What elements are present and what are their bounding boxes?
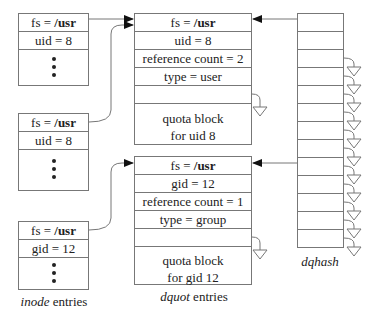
dquot-quota-block: quota block for uid 8 xyxy=(135,110,251,144)
inode-fs-field: fs = /usr xyxy=(19,222,88,240)
hash-bucket xyxy=(298,140,343,158)
inode-entry-3: fs = /usr gid = 12 xyxy=(18,221,89,290)
inode-id-field: uid = 8 xyxy=(19,32,88,50)
arrow-inode3-to-dquot xyxy=(89,163,133,230)
fs-label: fs = xyxy=(31,15,54,30)
ellipsis-icon xyxy=(19,259,88,287)
dquot-refcount-field: reference count = 2 xyxy=(135,50,251,68)
hash-bucket xyxy=(298,14,343,32)
hash-bucket xyxy=(298,176,343,194)
inode-entries-caption: inode entries xyxy=(14,294,94,310)
inode-id-field: uid = 8 xyxy=(19,132,88,150)
hash-bucket xyxy=(298,212,343,230)
dquot-id-field: gid = 12 xyxy=(135,175,251,193)
dquot-entry-group: fs = /usr gid = 12 reference count = 1 t… xyxy=(134,156,252,285)
hash-bucket xyxy=(298,68,343,86)
dqhash-table xyxy=(297,13,344,248)
fs-value: /usr xyxy=(54,115,76,130)
hash-bucket xyxy=(298,194,343,212)
dquot-type-field: type = user xyxy=(135,68,251,86)
hash-bucket xyxy=(298,122,343,140)
dquot-type-field: type = group xyxy=(135,211,251,229)
inode-fs-field: fs = /usr xyxy=(19,14,88,32)
dquot-entry-user: fs = /usr uid = 8 reference count = 2 ty… xyxy=(134,13,252,145)
dquot-fs-field: fs = /usr xyxy=(135,14,251,32)
fs-value: /usr xyxy=(54,15,76,30)
dquot-hash-link-field xyxy=(135,229,251,247)
dquot-hash-link-field xyxy=(135,86,251,104)
inode-entry-1: fs = /usr uid = 8 xyxy=(18,13,89,86)
dquot-id-field: uid = 8 xyxy=(135,32,251,50)
dquot-fs-field: fs = /usr xyxy=(135,157,251,175)
hash-bucket xyxy=(298,158,343,176)
dqhash-caption: dqhash xyxy=(290,254,350,270)
inode-id-field: gid = 12 xyxy=(19,240,88,258)
ellipsis-icon xyxy=(19,53,88,81)
fs-value: /usr xyxy=(54,223,76,238)
fs-label: fs = xyxy=(31,115,54,130)
ellipsis-icon xyxy=(19,155,88,183)
fs-label: fs = xyxy=(31,223,54,238)
inode-fs-field: fs = /usr xyxy=(19,114,88,132)
arrow-inode2-to-dquot xyxy=(89,25,133,122)
dquot-refcount-field: reference count = 1 xyxy=(135,193,251,211)
hash-bucket xyxy=(298,32,343,50)
hash-bucket xyxy=(298,50,343,68)
dquot-quota-block: quota block for gid 12 xyxy=(135,252,251,286)
dquot-entries-caption: dquot entries xyxy=(150,289,238,305)
hash-bucket xyxy=(298,104,343,122)
inode-entry-2: fs = /usr uid = 8 xyxy=(18,113,89,191)
hash-bucket xyxy=(298,86,343,104)
